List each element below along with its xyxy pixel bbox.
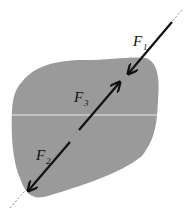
svg-text:F: F — [73, 89, 84, 105]
svg-text:2: 2 — [46, 156, 51, 166]
force-diagram: F 1 F 3 F 2 — [0, 0, 185, 217]
svg-text:F: F — [132, 33, 143, 49]
svg-text:3: 3 — [83, 98, 89, 108]
rigid-body-shape — [12, 57, 159, 197]
svg-text:F: F — [35, 147, 46, 163]
label-f1: F 1 — [132, 33, 148, 52]
svg-text:1: 1 — [143, 42, 148, 52]
